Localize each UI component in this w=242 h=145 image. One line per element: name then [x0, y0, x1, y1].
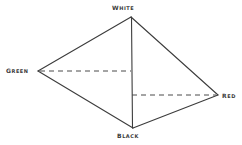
vertex-label-green: GREEN: [6, 66, 29, 75]
edge-white-green-line: [38, 17, 131, 71]
vertex-label-red: RED: [222, 91, 236, 100]
tetrahedron-diagram: WHITE GREEN RED BLACK: [0, 0, 242, 145]
edge-green-black-line: [38, 71, 133, 128]
edge-white-red-line: [131, 17, 218, 95]
vertex-label-black: BLACK: [117, 131, 139, 140]
edge-red-black-line: [133, 95, 218, 128]
vertex-label-white: WHITE: [112, 3, 134, 12]
tetrahedron-svg: [0, 0, 242, 145]
edge-white-black-line: [132, 17, 133, 128]
